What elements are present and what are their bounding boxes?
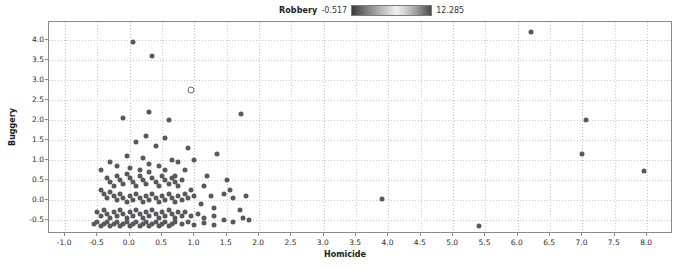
data-point[interactable] (208, 194, 213, 199)
data-point[interactable] (239, 112, 244, 117)
data-point[interactable] (137, 168, 142, 173)
data-point[interactable] (163, 136, 168, 141)
data-point[interactable] (176, 160, 181, 165)
data-point[interactable] (477, 224, 482, 229)
data-point[interactable] (211, 222, 216, 227)
data-point[interactable] (114, 164, 119, 169)
x-tick-mark (355, 233, 356, 236)
data-point[interactable] (224, 178, 229, 183)
data-point[interactable] (124, 200, 129, 205)
data-point[interactable] (121, 182, 126, 187)
data-point[interactable] (140, 200, 145, 205)
data-point[interactable] (182, 168, 187, 173)
data-point[interactable] (134, 140, 139, 145)
data-point[interactable] (215, 152, 220, 157)
data-point[interactable] (182, 210, 187, 215)
data-point[interactable] (179, 222, 184, 227)
x-tick-mark (549, 233, 550, 236)
data-point[interactable] (173, 200, 178, 205)
data-point[interactable] (247, 218, 252, 223)
data-point[interactable] (147, 162, 152, 167)
data-point[interactable] (195, 212, 200, 217)
data-point[interactable] (166, 118, 171, 123)
data-point[interactable] (147, 214, 152, 219)
highlighted-data-point[interactable] (188, 87, 195, 94)
data-point[interactable] (198, 202, 203, 207)
data-point[interactable] (176, 184, 181, 189)
y-tick-mark (45, 139, 48, 140)
data-point[interactable] (244, 194, 249, 199)
data-point[interactable] (166, 182, 171, 187)
data-point[interactable] (228, 188, 233, 193)
data-point[interactable] (147, 110, 152, 115)
data-point[interactable] (108, 160, 113, 165)
data-point[interactable] (147, 170, 152, 175)
data-point[interactable] (163, 168, 168, 173)
data-point[interactable] (143, 134, 148, 139)
data-point[interactable] (186, 146, 191, 151)
data-point[interactable] (583, 118, 588, 123)
data-point[interactable] (131, 214, 136, 219)
data-point[interactable] (163, 198, 168, 203)
x-tick-label: 4.5 (414, 238, 426, 247)
data-point[interactable] (231, 220, 236, 225)
data-point[interactable] (105, 196, 110, 201)
x-tick-mark (161, 233, 162, 236)
data-point[interactable] (169, 158, 174, 163)
scatter-plot-figure: Robbery -0.517 12.285 Homicide Buggery -… (0, 0, 690, 269)
data-point[interactable] (131, 198, 136, 203)
data-point[interactable] (156, 164, 161, 169)
data-point[interactable] (192, 194, 197, 199)
data-point[interactable] (156, 184, 161, 189)
data-point[interactable] (143, 182, 148, 187)
data-point[interactable] (380, 197, 385, 202)
data-point[interactable] (189, 214, 194, 219)
x-tick-mark (96, 233, 97, 236)
data-point[interactable] (124, 154, 129, 159)
data-point[interactable] (114, 198, 119, 203)
data-point[interactable] (98, 214, 103, 219)
data-point[interactable] (186, 196, 191, 201)
x-tick-mark (387, 233, 388, 236)
data-point[interactable] (147, 198, 152, 203)
data-point[interactable] (211, 206, 216, 211)
data-point[interactable] (173, 220, 178, 225)
data-point[interactable] (202, 184, 207, 189)
data-point[interactable] (156, 200, 161, 205)
data-point[interactable] (192, 222, 197, 227)
data-point[interactable] (134, 184, 139, 189)
data-point[interactable] (182, 192, 187, 197)
data-point[interactable] (98, 168, 103, 173)
data-point[interactable] (140, 156, 145, 161)
data-point[interactable] (202, 221, 207, 226)
data-point[interactable] (131, 40, 136, 45)
gridline-horizontal (49, 140, 671, 141)
data-point[interactable] (237, 208, 242, 213)
data-point[interactable] (641, 169, 646, 174)
data-point[interactable] (205, 174, 210, 179)
gridline-horizontal (49, 60, 671, 61)
data-point[interactable] (179, 178, 184, 183)
data-point[interactable] (186, 220, 191, 225)
data-point[interactable] (528, 30, 533, 35)
x-tick-label: 3.5 (349, 238, 361, 247)
data-point[interactable] (150, 54, 155, 59)
x-tick-label: 3.0 (317, 238, 329, 247)
data-point[interactable] (173, 174, 178, 179)
data-point[interactable] (189, 188, 194, 193)
data-point[interactable] (231, 196, 236, 201)
data-point[interactable] (121, 116, 126, 121)
data-point[interactable] (221, 218, 226, 223)
data-point[interactable] (580, 152, 585, 157)
data-point[interactable] (192, 158, 197, 163)
data-point[interactable] (221, 192, 226, 197)
data-point[interactable] (179, 198, 184, 203)
data-point[interactable] (153, 144, 158, 149)
data-point[interactable] (111, 184, 116, 189)
data-point[interactable] (163, 214, 168, 219)
data-point[interactable] (127, 166, 132, 171)
data-point[interactable] (114, 214, 119, 219)
data-point[interactable] (211, 214, 216, 219)
data-point[interactable] (240, 216, 245, 221)
y-tick-label: 3.5 (32, 55, 44, 64)
